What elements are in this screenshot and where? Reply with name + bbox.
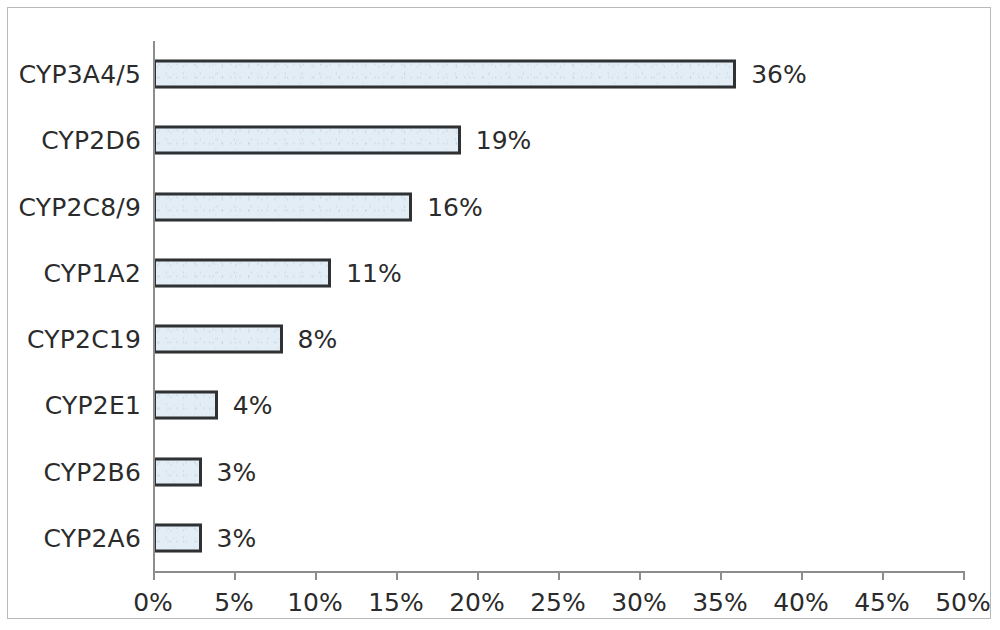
x-axis-tick xyxy=(558,571,560,580)
x-axis-tick-label: 0% xyxy=(133,588,173,617)
bar-value-label: 3% xyxy=(217,457,257,486)
bar xyxy=(153,192,412,221)
x-axis-tick xyxy=(477,571,479,580)
bar xyxy=(153,391,218,420)
x-axis-tick-label: 5% xyxy=(214,588,254,617)
plot-area: CYP3A4/5CYP2D6CYP2C8/9CYP1A2CYP2C19CYP2E… xyxy=(8,8,992,620)
x-axis-tick-label: 50% xyxy=(935,588,991,617)
x-axis-tick-label: 40% xyxy=(773,588,829,617)
bar-value-label: 11% xyxy=(346,258,402,287)
x-axis-tick xyxy=(153,571,155,580)
bar-value-label: 19% xyxy=(476,126,532,155)
x-axis-tick-label: 25% xyxy=(530,588,586,617)
x-axis-tick xyxy=(801,571,803,580)
x-axis-tick-label: 15% xyxy=(368,588,424,617)
bar-value-label: 8% xyxy=(298,325,338,354)
bar xyxy=(153,523,202,552)
x-axis-tick xyxy=(396,571,398,580)
x-axis-tick-label: 20% xyxy=(449,588,505,617)
bar-value-label: 16% xyxy=(427,192,483,221)
x-axis-tick xyxy=(720,571,722,580)
x-axis-tick xyxy=(315,571,317,580)
x-axis-tick xyxy=(234,571,236,580)
x-axis-tick-label: 30% xyxy=(611,588,667,617)
bar xyxy=(153,60,736,89)
chart-frame: CYP3A4/5CYP2D6CYP2C8/9CYP1A2CYP2C19CYP2E… xyxy=(7,7,991,619)
bar-value-label: 36% xyxy=(751,60,807,89)
y-axis-line xyxy=(153,41,155,571)
bar xyxy=(153,126,461,155)
x-axis-tick-label: 35% xyxy=(692,588,748,617)
bar-value-label: 4% xyxy=(233,391,273,420)
x-axis-tick-label: 10% xyxy=(287,588,343,617)
x-axis-tick xyxy=(882,571,884,580)
x-axis-tick xyxy=(963,571,965,580)
x-axis-tick xyxy=(639,571,641,580)
bar xyxy=(153,258,331,287)
x-axis-tick-label: 45% xyxy=(854,588,910,617)
bar-series: 36%19%16%11%8%4%3%3% xyxy=(8,8,992,620)
bar xyxy=(153,325,283,354)
bar-value-label: 3% xyxy=(217,523,257,552)
bar xyxy=(153,457,202,486)
